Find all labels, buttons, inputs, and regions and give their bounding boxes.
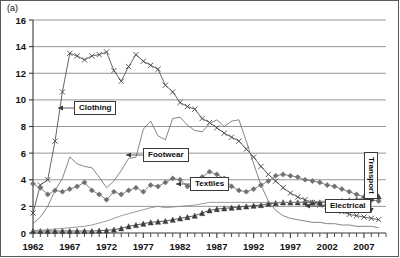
svg-text:1962: 1962 (22, 241, 43, 252)
svg-text:8: 8 (21, 121, 26, 132)
x-axis-tick-labels: 1962196719721977198219871992199720022007 (22, 241, 374, 252)
svg-text:1992: 1992 (243, 241, 264, 252)
svg-text:2: 2 (21, 201, 26, 212)
svg-text:16: 16 (15, 15, 26, 26)
callout-leaders-group (58, 105, 374, 213)
figure-root: (a) 0246810121416 1962196719721977198219… (0, 0, 400, 258)
series-label-clothing: Clothing (74, 101, 116, 115)
y-axis-tick-labels: 0246810121416 (15, 15, 26, 239)
series-label-electrical: Electrical (325, 199, 371, 213)
chart-plot-area: 0246810121416 19621967197219771982198719… (0, 0, 400, 258)
series-label-footwear: Footwear (143, 148, 189, 162)
svg-text:1977: 1977 (133, 241, 154, 252)
svg-text:4: 4 (21, 174, 27, 185)
svg-text:10: 10 (15, 94, 26, 105)
svg-text:14: 14 (15, 41, 26, 52)
svg-text:1982: 1982 (170, 241, 191, 252)
svg-text:1972: 1972 (96, 241, 117, 252)
svg-text:12: 12 (15, 68, 26, 79)
svg-text:0: 0 (21, 228, 26, 239)
series-label-transport: Transport (364, 152, 378, 199)
series-label-textiles: Textiles (190, 177, 229, 191)
svg-text:6: 6 (21, 148, 26, 159)
svg-text:1997: 1997 (280, 241, 301, 252)
series-clothing (30, 49, 381, 222)
line-chart-svg: 0246810121416 19621967197219771982198719… (0, 0, 400, 258)
svg-text:2007: 2007 (353, 241, 374, 252)
svg-text:1987: 1987 (206, 241, 227, 252)
svg-text:2002: 2002 (317, 241, 338, 252)
svg-text:1967: 1967 (59, 241, 80, 252)
